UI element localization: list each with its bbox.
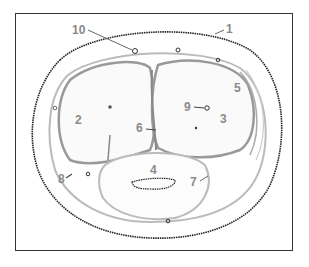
label-5: 5 [234,81,241,95]
leader-1 [215,30,224,34]
leader-8 [66,174,72,178]
vessel [53,106,57,110]
vessel [86,172,90,176]
vessel [176,48,180,52]
muscle-2 [59,62,155,163]
label-8: 8 [58,172,65,186]
label-9: 9 [184,100,191,114]
cross-section-diagram: 1 2 3 4 5 6 7 8 9 10 [0,0,309,267]
vessel [108,105,112,109]
label-6: 6 [136,121,143,135]
label-10: 10 [72,23,86,37]
vessel-10 [133,49,138,54]
label-4: 4 [150,163,157,177]
label-1: 1 [226,22,233,36]
vessel [195,127,197,129]
leader-10 [88,30,132,50]
label-2: 2 [75,113,82,127]
label-7: 7 [190,175,197,189]
muscle-3 [152,61,254,158]
label-3: 3 [220,112,227,126]
